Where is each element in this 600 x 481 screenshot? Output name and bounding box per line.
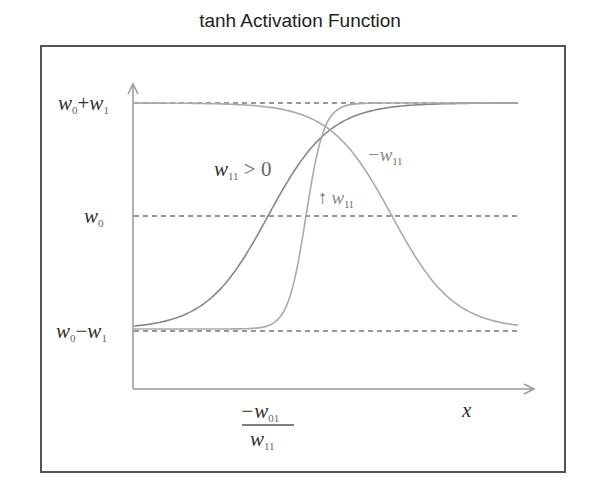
y-label-upper: w0+w1 (58, 91, 109, 116)
curve-w11-positive (134, 103, 518, 326)
x-axis-label: x (461, 398, 472, 422)
tanh-diagram: w0+w1 w0 w0−w1 w11 > 0 −w11 ↑w11 −w01 w1… (0, 0, 600, 481)
reference-lines (134, 103, 518, 331)
annotation-w11-positive: w11 > 0 (214, 157, 271, 182)
curve-negative-w11 (134, 103, 518, 325)
y-label-mid: w0 (84, 204, 104, 229)
y-label-lower: w0−w1 (56, 319, 107, 344)
x-tick-denominator: w11 (250, 427, 275, 452)
x-tick-numerator: −w01 (240, 399, 279, 424)
diagram-frame (41, 46, 565, 472)
annotation-increase-w11: ↑w11 (318, 187, 354, 210)
annotation-negative-w11: −w11 (367, 144, 402, 167)
